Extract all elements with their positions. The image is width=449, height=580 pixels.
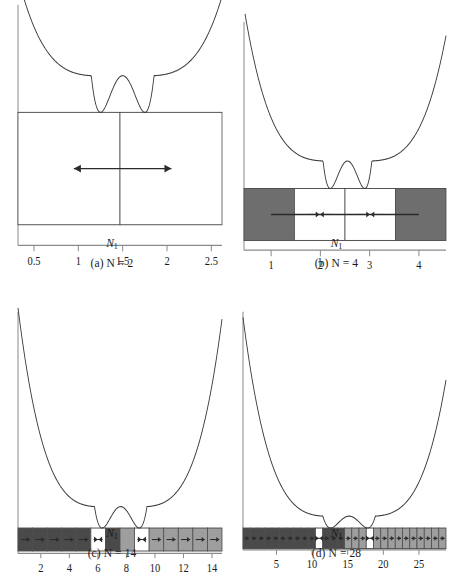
panel-b-caption: (b) N = 4: [224, 257, 449, 269]
panel-a: 0.511.522.5 N1 (a) N = 2: [0, 0, 224, 290]
x-tick-label: 4: [67, 561, 72, 575]
panel-c: 2468101214 N1 (c) N = 14: [0, 290, 224, 580]
x-tick-label: 10: [150, 561, 161, 575]
x-tick-label: 10: [307, 557, 318, 571]
panel-d-caption: (d) N = 28: [224, 547, 449, 559]
panel-c-xaxis-label: N1: [0, 527, 224, 539]
double-well-curve: [18, 308, 222, 528]
double-well-curve: [245, 14, 446, 189]
x-tick-label: 6: [95, 561, 100, 575]
double-well-curve: [23, 0, 222, 112]
x-tick-label: 14: [207, 561, 218, 575]
x-tick-label: 8: [124, 561, 129, 575]
double-well-curve: [243, 317, 446, 528]
x-tick-label: 25: [414, 557, 425, 571]
panel-c-caption: (c) N = 14: [0, 547, 224, 559]
x-tick-label: 15: [342, 557, 353, 571]
panel-a-caption: (a) N = 2: [0, 257, 224, 269]
x-tick-label: 2: [38, 561, 43, 575]
panel-d-xaxis-label: N1: [224, 527, 449, 539]
panel-d: 510152025 N1 (d) N = 28: [224, 290, 449, 580]
figure-grid: 0.511.522.5 N1 (a) N = 2 1234 N1 (b) N =…: [0, 0, 449, 580]
x-tick-label: 12: [178, 561, 189, 575]
x-tick-label: 20: [378, 557, 389, 571]
panel-b: 1234 N1 (b) N = 4: [224, 0, 449, 290]
panel-b-xaxis-label: N1: [224, 237, 449, 249]
panel-a-xaxis-label: N1: [0, 237, 224, 249]
x-tick-label: 5: [274, 557, 279, 571]
